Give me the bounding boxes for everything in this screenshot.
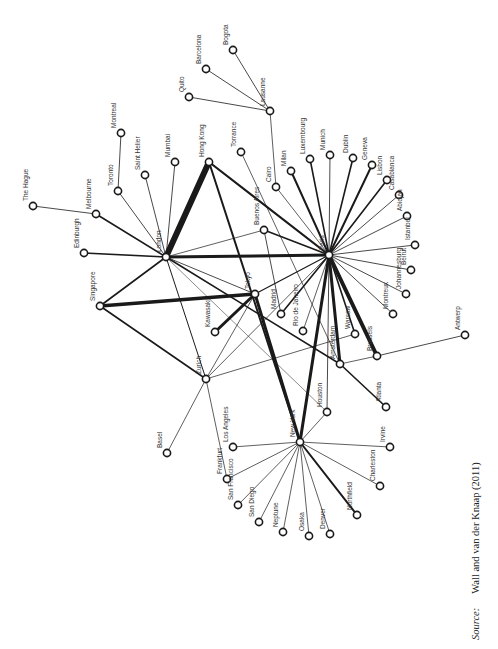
edge-singapore-tokyo <box>100 294 255 306</box>
node-label-istanbul: Istanbul <box>404 217 411 240</box>
edge-new-york-los-angeles <box>233 442 300 447</box>
node-label-paris: Paris <box>318 234 325 250</box>
node-toronto <box>114 187 121 194</box>
node-rio-de-janeiro <box>299 327 306 334</box>
node-label-edinburgh: Edinburgh <box>73 218 81 248</box>
node-montreux <box>389 310 396 317</box>
node-amsterdam <box>336 360 343 367</box>
node-label-atlanta: Atlanta <box>375 381 382 402</box>
node-label-milan: Milan <box>280 150 287 166</box>
node-houston <box>323 408 330 415</box>
node-label-denver: Denver <box>319 507 326 529</box>
node-label-antwerp: Antwerp <box>454 306 462 330</box>
node-label-hong-kong: Hong Kong <box>198 124 206 157</box>
node-new-york <box>296 438 303 445</box>
node-label-new-york: New York <box>289 409 296 437</box>
node-label-rio-de-janeiro: Rio de Janeiro <box>292 284 299 326</box>
node-label-montreal: Montreal <box>110 102 117 128</box>
node-label-dublin: Dublin <box>342 134 349 153</box>
node-label-warsaw: Warsaw <box>344 305 351 329</box>
node-mumbai <box>171 158 178 165</box>
node-johannesburg <box>402 290 409 297</box>
node-label-houston: Houston <box>316 382 323 407</box>
node-label-the-hague: The Hague <box>22 168 30 201</box>
node-label-bogota: Bogota <box>222 24 230 45</box>
node-label-cairo: Cairo <box>265 166 272 182</box>
node-buenos-aires <box>260 226 267 233</box>
node-irvine <box>386 443 393 450</box>
node-label-mumbai: Mumbai <box>164 134 171 157</box>
node-label-brussels: Brussels <box>366 325 373 351</box>
node-label-amsterdam: Amsterdam <box>329 326 336 359</box>
source-text: Wall and van der Knaap (2011) <box>470 462 481 593</box>
edge-london-edinburgh <box>84 253 166 257</box>
node-label-san-diego: San Diego <box>248 486 256 517</box>
node-luxembourg <box>306 155 313 162</box>
node-warsaw <box>351 330 358 337</box>
node-label-kawasaki: Kawasaki <box>204 299 211 327</box>
node-dublin <box>349 154 356 161</box>
node-antwerp <box>461 331 468 338</box>
edge-london-buenos-aires <box>166 230 264 257</box>
node-san-diego <box>255 518 262 525</box>
edge-new-york-san-diego <box>259 442 300 522</box>
node-neptune <box>279 528 286 535</box>
edge-london-hong-kong <box>166 162 209 257</box>
node-quito <box>185 93 192 100</box>
node-label-frankfurt: Frankfurt <box>216 448 223 474</box>
node-montreal <box>117 129 124 136</box>
node-torrance <box>237 148 244 155</box>
node-istanbul <box>411 241 418 248</box>
node-label-san-francisco: San Francisco <box>227 458 234 500</box>
node-atlanta <box>382 403 389 410</box>
edges-layer <box>33 50 465 536</box>
node-label-tokyo: Tokyo <box>244 272 252 289</box>
edge-torrance-amsterdam <box>241 152 340 364</box>
node-label-toronto: Toronto <box>107 164 114 186</box>
node-madrid <box>277 310 284 317</box>
edge-brussels-antwerp <box>377 335 465 356</box>
node-charleston <box>376 482 383 489</box>
node-kawasaki <box>211 328 218 335</box>
node-label-singapore: Singapore <box>89 271 97 301</box>
node-label-casablanca: Casablanca <box>388 155 395 190</box>
labels-layer: The HagueMelbourneTorontoMontrealSaint H… <box>22 24 462 531</box>
node-northfield <box>353 511 360 518</box>
node-basel <box>163 449 170 456</box>
node-the-hague <box>29 202 36 209</box>
network-diagram: The HagueMelbourneTorontoMontrealSaint H… <box>0 0 498 649</box>
node-lausanne <box>266 107 273 114</box>
edge-toronto-montreal <box>118 133 121 191</box>
node-london <box>162 253 169 260</box>
edge-brussels-amsterdam <box>340 356 377 364</box>
node-label-barcelona: Barcelona <box>195 34 202 64</box>
node-label-johannesburg: Johannesburg <box>395 247 403 289</box>
source-caption: Source:Wall and van der Knaap (2011) <box>470 462 481 640</box>
edge-zurich-basel <box>167 379 206 453</box>
edge-new-york-frankfurt <box>227 442 300 479</box>
node-munich <box>326 151 333 158</box>
node-label-quito: Quito <box>178 76 186 92</box>
node-edinburgh <box>80 249 87 256</box>
node-label-lisbon: Lisbon <box>376 155 383 175</box>
edge-new-york-irvine <box>300 442 390 447</box>
node-label-charleston: Charleston <box>369 449 376 481</box>
node-bogota <box>229 46 236 53</box>
node-label-munich: Munich <box>319 129 326 150</box>
edge-london-paris <box>166 255 329 257</box>
node-label-zurich: Zurich <box>195 356 202 374</box>
node-zurich <box>202 375 209 382</box>
node-los-angeles <box>229 443 236 450</box>
node-label-montreux: Montreux <box>382 281 389 309</box>
node-label-luxembourg: Luxembourg <box>299 117 307 154</box>
node-label-basel: Basel <box>156 431 163 448</box>
node-label-osaka: Osaka <box>298 512 305 531</box>
edge-london-singapore <box>100 257 166 306</box>
node-barcelona <box>202 65 209 72</box>
node-label-lausanne: Lausanne <box>259 77 266 106</box>
node-hong-kong <box>205 158 212 165</box>
node-saint-helier <box>141 171 148 178</box>
node-label-london: London <box>155 230 162 252</box>
node-label-neptune: Neptune <box>272 502 280 527</box>
node-label-northfield: Northfield <box>346 482 353 510</box>
